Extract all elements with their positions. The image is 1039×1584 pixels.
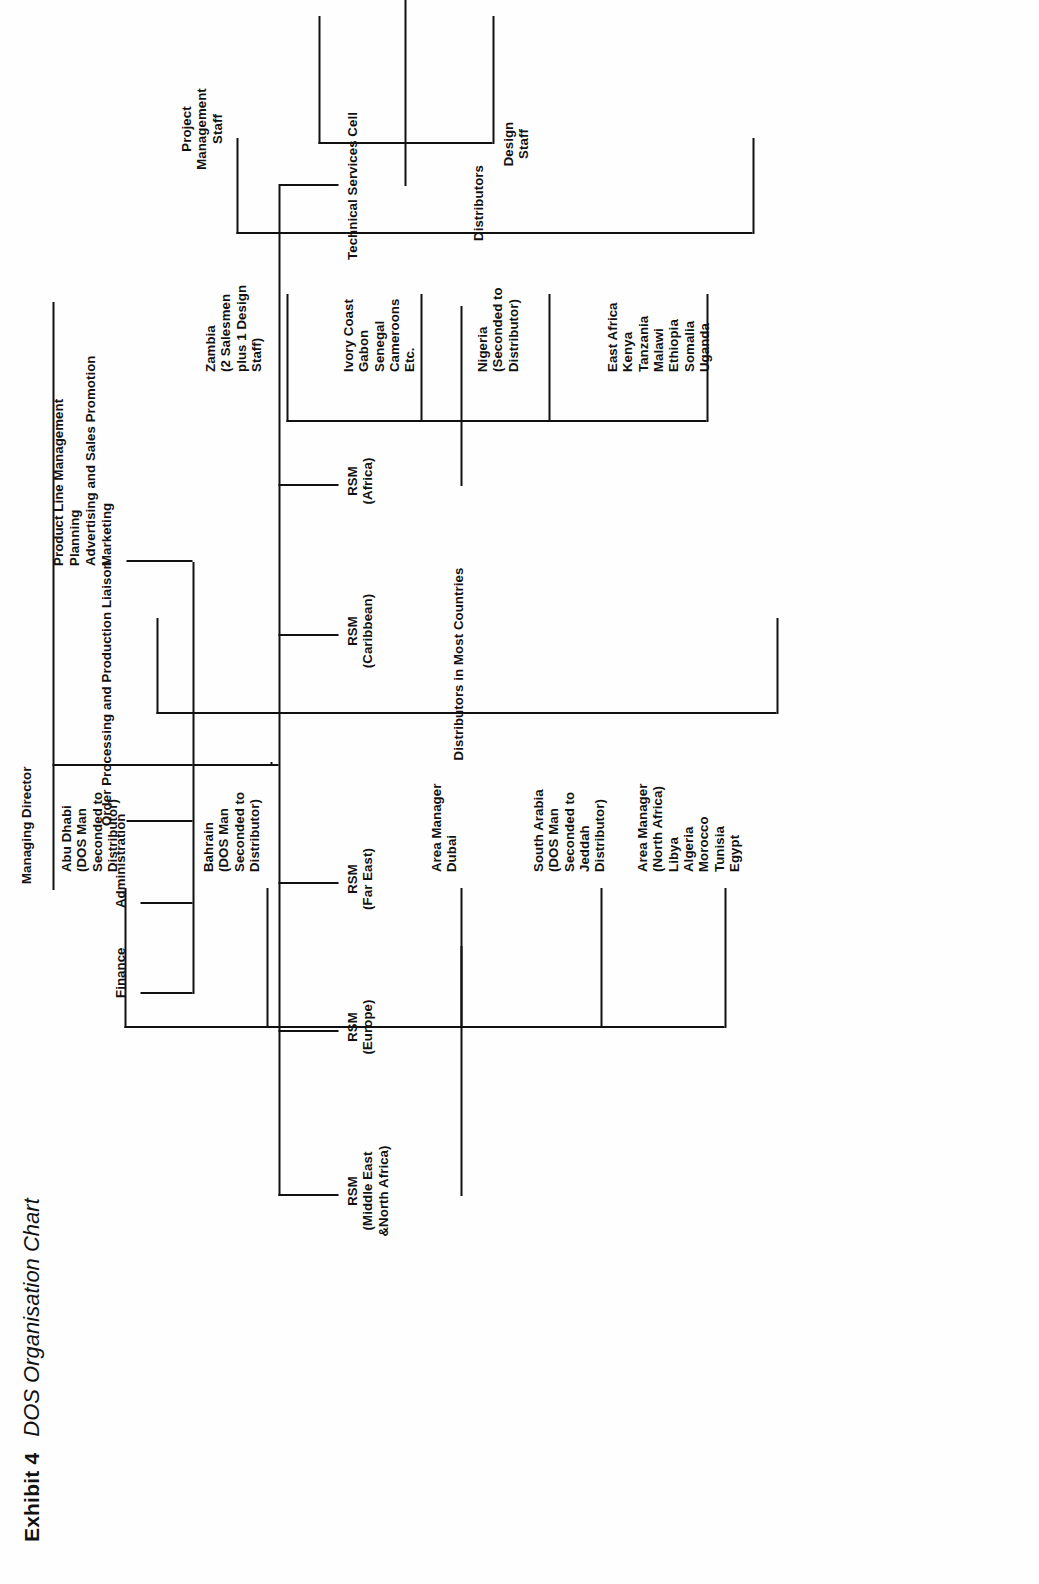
connector-md-to-staff [52,764,192,766]
bracket-distributors-bottom [752,138,754,234]
node-planning: Planning [66,510,81,566]
bracket-label-distributors-most-countries: Distributors in Most Countries [450,534,465,794]
node-ivory-coast: Ivory Coast Gabon Senegal Cameroons Etc. [340,299,417,372]
node-managing-director: Managing Director [18,767,33,884]
connector-tsc-bus [318,142,492,144]
node-order-processing: Order Processing and Production Liaison [98,561,113,826]
connector-riser-rsm-africa [278,484,338,486]
connector-riser-rsm-far-east [278,882,338,884]
node-design-staff: Design Staff [500,84,531,204]
node-nigeria: Nigeria (Seconded to Distributor) [474,287,520,372]
node-technical-services-cell: Technical Services Cell [344,106,359,266]
connector-arm-abu-dhabi [124,888,126,1028]
node-marketing: Marketing [98,503,113,566]
connector-riser-rsm-middle-east [278,1194,338,1196]
node-abu-dhabi: Abu Dhabi (DOS Man Seconded to Distribut… [58,792,119,872]
connector-riser-marketing [126,560,192,562]
connector-arm-zambia [286,294,288,422]
bracket-distributors-most-top [156,618,158,714]
node-area-manager-dubai: Area Manager Dubai [428,784,459,872]
node-rsm-africa: RSM (Africa) [344,426,375,536]
connector-arm-project-management-staff [318,16,320,144]
node-east-africa: East Africa Kenya Tanzania Malawi Ethiop… [604,302,711,372]
node-advertising-sales-promotion: Advertising and Sales Promotion [82,356,97,566]
connector-md-spine [52,302,54,890]
connector-tsc-stem [404,0,406,186]
node-zambia: Zambia (2 Salesmen plus 1 Design Staff) [202,285,263,372]
node-bahrain: Bahrain (DOS Man Seconded to Distributor… [200,792,261,872]
connector-arm-south-arabia [600,888,602,1028]
connector-riser-order-processing [126,820,192,822]
connector-riser-finance [140,992,192,994]
connector-md-to-rsm-bus [192,764,278,766]
bracket-distributors-most-bottom [776,618,778,714]
connector-riser-rsm-europe [278,1030,338,1032]
exhibit-number: Exhibit 4 [19,1453,42,1542]
page-title: Exhibit 4DOS Organisation Chart [18,1198,44,1542]
node-rsm-far-east: RSM (Far East) [344,824,375,934]
connector-arm-area-manager-dubai [460,888,462,1028]
node-south-arabia: South Arabia (DOS Man Seconded to Jeddah… [530,789,607,872]
connector-arm-ivory-coast [420,294,422,422]
connector-africa-bus [286,420,706,422]
bracket-distributors-top [236,138,238,234]
connector-arm-nigeria [548,294,550,422]
bracket-distributors-most-spine [156,712,776,714]
connector-staff-bus [192,562,194,994]
bracket-label-distributors: Distributors [470,138,485,268]
node-rsm-caribbean: RSM (Caribbean) [344,576,375,686]
bracket-distributors-spine [236,232,752,234]
node-product-line-management: Product Line Management [50,399,65,566]
org-chart-canvas: Exhibit 4DOS Organisation Chart Managing… [0,0,1039,1584]
connector-arm-bahrain [266,888,268,1028]
connector-riser-technical-services [278,184,338,186]
connector-riser-rsm-caribbean [278,634,338,636]
connector-middle-east-bus [124,1026,724,1028]
node-area-manager-north-africa: Area Manager (North Africa) Libya Algeri… [634,784,741,872]
connector-arm-area-manager-north-africa [724,888,726,1028]
node-project-management-staff: Project Management Staff [178,54,224,204]
connector-riser-administration [140,902,192,904]
exhibit-title: DOS Organisation Chart [18,1198,43,1436]
connector-africa-stem [460,306,462,486]
node-rsm-middle-east: RSM (Middle East &North Africa) [344,1136,390,1246]
connector-rsm-bus [278,186,280,1196]
connector-arm-design-staff [492,16,494,144]
